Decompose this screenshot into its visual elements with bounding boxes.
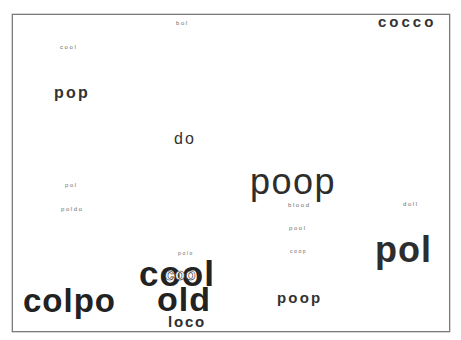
word-coop: coop	[290, 249, 307, 254]
word-pol-small: pol	[65, 182, 78, 188]
word-cool-small: cool	[60, 44, 77, 50]
word-pol-large: pol	[375, 232, 432, 268]
word-doll: doll	[403, 201, 419, 207]
word-pop: pop	[54, 85, 90, 101]
word-do: do	[174, 131, 196, 147]
word-cocco: cocco	[378, 14, 436, 29]
word-blood: blood	[288, 202, 311, 208]
word-poldo: poldo	[61, 206, 84, 212]
word-poop-medium: poop	[277, 290, 322, 305]
word-loco: loco	[168, 314, 206, 329]
word-pool: pool	[289, 225, 307, 231]
word-bol: bol	[176, 20, 189, 26]
word-old: old	[157, 282, 211, 316]
word-colpo: colpo	[23, 284, 116, 317]
word-poop-large: poop	[250, 164, 336, 200]
